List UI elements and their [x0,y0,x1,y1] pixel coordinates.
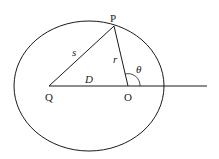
label-D: D [84,73,93,85]
segment-s [49,26,114,86]
label-P: P [110,12,116,24]
label-Q: Q [45,91,53,103]
label-r: r [113,53,118,65]
label-O: O [124,91,132,103]
ellipse-diagram: P Q O s r D θ [0,0,219,159]
label-s: s [72,46,76,58]
label-theta: θ [136,63,142,75]
